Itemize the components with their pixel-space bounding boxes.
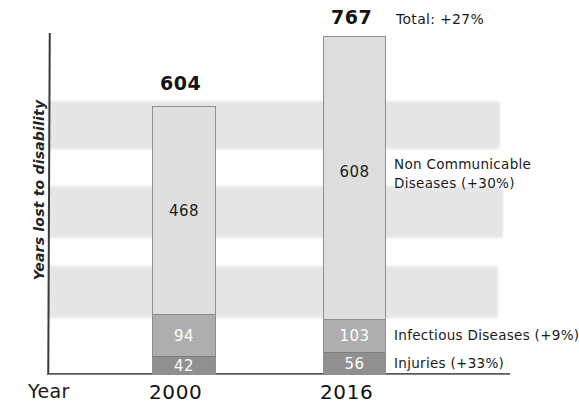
bar-segment-value: 103 bbox=[339, 327, 369, 345]
y-axis-label: Years lost to disability bbox=[31, 95, 47, 285]
annotation-infectious: Infectious Diseases (+9%) bbox=[394, 326, 579, 345]
bar-segment-infectious-2000[interactable]: 94 bbox=[153, 314, 215, 356]
x-tick-label-2000: 2000 bbox=[149, 380, 202, 404]
bar-segment-non-communicable-2000[interactable]: 468 bbox=[153, 107, 215, 314]
bar-total-label-2000: 604 bbox=[160, 72, 201, 94]
x-axis-label: Year bbox=[28, 380, 70, 402]
bar-segment-non-communicable-2016[interactable]: 608 bbox=[324, 37, 385, 319]
annotation-non-communicable: Non Communicable Diseases (+30%) bbox=[394, 155, 531, 193]
bar-segment-value: 468 bbox=[169, 202, 199, 220]
x-axis-line bbox=[48, 373, 510, 375]
bar-segment-value: 94 bbox=[174, 327, 194, 345]
background-stripe bbox=[48, 266, 498, 318]
bar-2000[interactable]: 468 94 42 bbox=[152, 106, 216, 374]
background-stripe bbox=[48, 101, 500, 149]
bar-total-label-2016: 767 bbox=[331, 6, 372, 28]
annotation-non-communicable-line1: Non Communicable bbox=[394, 155, 531, 174]
chart-canvas: Years lost to disability Year 604 468 94… bbox=[0, 0, 579, 412]
annotation-non-communicable-line2: Diseases (+30%) bbox=[394, 174, 531, 193]
bar-segment-injuries-2000[interactable]: 42 bbox=[153, 356, 215, 375]
bar-segment-value: 42 bbox=[174, 357, 194, 375]
annotation-injuries: Injuries (+33%) bbox=[394, 354, 504, 373]
bar-segment-infectious-2016[interactable]: 103 bbox=[324, 319, 385, 352]
background-stripe bbox=[48, 186, 503, 238]
bar-segment-value: 608 bbox=[339, 163, 369, 181]
annotation-total: Total: +27% bbox=[396, 10, 484, 29]
bar-segment-injuries-2016[interactable]: 56 bbox=[324, 352, 385, 375]
bar-2016[interactable]: 608 103 56 bbox=[323, 36, 386, 374]
x-tick-label-2016: 2016 bbox=[320, 380, 373, 404]
bar-segment-value: 56 bbox=[344, 355, 364, 373]
